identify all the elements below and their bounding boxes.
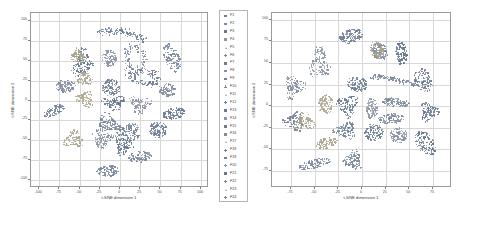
scatter-point: [320, 141, 321, 142]
scatter-point: [100, 170, 101, 171]
scatter-point: [178, 58, 179, 59]
scatter-point: [353, 40, 354, 41]
scatter-point: [306, 163, 307, 164]
legend-label: F2: [229, 22, 234, 26]
scatter-point: [345, 137, 346, 138]
scatter-point: [316, 72, 317, 73]
scatter-point: [335, 138, 336, 139]
scatter-point: [323, 139, 324, 140]
scatter-point: [178, 63, 179, 64]
x-tick-label: -25: [335, 191, 340, 195]
scatter-point: [380, 122, 381, 123]
scatter-point: [164, 48, 165, 49]
scatter-point: [49, 112, 50, 113]
scatter-point: [389, 99, 390, 100]
scatter-point: [154, 135, 155, 136]
scatter-point: [66, 90, 67, 91]
scatter-point: [151, 101, 152, 102]
scatter-point: [151, 103, 152, 104]
scatter-point: [158, 134, 159, 135]
scatter-point: [427, 152, 428, 153]
scatter-point: [150, 75, 151, 76]
scatter-point: [346, 136, 347, 137]
scatter-point: [376, 50, 377, 51]
scatter-point: [106, 33, 107, 34]
scatter-point: [89, 65, 90, 66]
scatter-point: [357, 34, 358, 35]
scatter-point: [180, 66, 181, 67]
scatter-point: [404, 103, 405, 104]
scatter-point: [127, 36, 128, 37]
scatter-point: [340, 104, 341, 105]
scatter-point: [431, 149, 432, 150]
scatter-point: [287, 82, 288, 83]
scatter-point: [356, 166, 357, 167]
scatter-point: [397, 52, 398, 53]
scatter-point: [90, 97, 91, 98]
scatter-point: [112, 137, 113, 138]
scatter-point: [147, 153, 148, 154]
scatter-point: [424, 80, 425, 81]
scatter-point: [102, 59, 103, 60]
scatter-point: [292, 87, 293, 88]
scatter-point: [152, 72, 153, 73]
scatter-point: [176, 68, 177, 69]
scatter-point: [105, 93, 106, 94]
scatter-point: [162, 136, 163, 137]
scatter-point: [65, 86, 66, 87]
scatter-point: [80, 63, 81, 64]
y-tick: [28, 119, 30, 120]
y-tick-label: -75: [257, 168, 268, 172]
scatter-point: [141, 35, 142, 36]
scatter-point: [125, 28, 126, 29]
scatter-point: [129, 133, 130, 134]
scatter-point: [382, 129, 383, 130]
scatter-point: [347, 37, 348, 38]
scatter-point: [171, 63, 172, 64]
scatter-point: [125, 70, 126, 71]
scatter-point: [373, 79, 374, 80]
scatter-point: [70, 84, 71, 85]
scatter-point: [316, 52, 317, 53]
scatter-point: [88, 67, 89, 68]
scatter-point: [103, 167, 104, 168]
scatter-point: [119, 143, 120, 144]
scatter-point: [128, 54, 129, 55]
scatter-point: [364, 82, 365, 83]
scatter-point: [306, 117, 307, 118]
panel-left: -100-75-50-2502550751001007550250-25-50-…: [0, 0, 239, 225]
scatter-point: [182, 109, 183, 110]
scatter-point: [90, 78, 91, 79]
legend-label: F5: [229, 46, 234, 50]
x-tick-label: 75: [178, 191, 182, 195]
scatter-point: [162, 128, 163, 129]
scatter-point: [155, 137, 156, 138]
scatter-point: [80, 141, 81, 142]
scatter-point: [168, 61, 169, 62]
scatter-point: [298, 83, 299, 84]
scatter-point: [396, 122, 397, 123]
scatter-point: [302, 87, 303, 88]
scatter-point: [167, 64, 168, 65]
scatter-point: [138, 41, 139, 42]
scatter-point: [368, 105, 369, 106]
scatter-point: [302, 89, 303, 90]
legend-label: F15: [229, 125, 236, 129]
scatter-point: [303, 167, 304, 168]
scatter-point: [346, 124, 347, 125]
scatter-point: [371, 127, 372, 128]
scatter-point: [69, 140, 70, 141]
legend-label: F9: [229, 77, 234, 81]
scatter-point: [343, 160, 344, 161]
scatter-point: [348, 97, 349, 98]
scatter-point: [59, 109, 60, 110]
scatter-point: [397, 56, 398, 57]
scatter-point: [354, 32, 355, 33]
scatter-point: [427, 72, 428, 73]
scatter-point: [375, 138, 376, 139]
scatter-point: [127, 34, 128, 35]
scatter-point: [126, 49, 127, 50]
scatter-point: [381, 56, 382, 57]
scatter-point: [154, 78, 155, 79]
scatter-point: [346, 159, 347, 160]
